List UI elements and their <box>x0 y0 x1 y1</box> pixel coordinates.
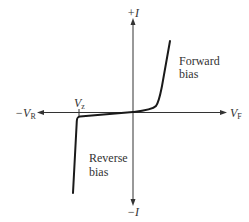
reverse-bias-label-line2: bias <box>89 165 109 179</box>
forward-voltage-label: VF <box>230 106 242 121</box>
positive-current-label: +I <box>127 6 140 20</box>
arrow-right-icon <box>220 110 227 115</box>
iv-characteristic-diagram: +I −I −VR VF Vz Forward bias Reverse bia… <box>0 0 249 222</box>
arrow-left-icon <box>37 110 44 115</box>
forward-bias-label-line2: bias <box>179 67 199 81</box>
negative-current-label: −I <box>127 205 140 219</box>
forward-bias-curve <box>133 41 170 112</box>
zener-voltage-label: Vz <box>74 96 85 111</box>
forward-bias-label-line1: Forward <box>179 54 220 68</box>
reverse-voltage-label: −VR <box>15 106 36 121</box>
reverse-bias-label-line1: Reverse <box>89 151 128 165</box>
